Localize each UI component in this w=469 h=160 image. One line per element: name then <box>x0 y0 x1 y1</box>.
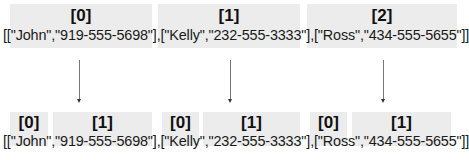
arrow-down-icon-2 <box>383 60 384 100</box>
outer-index-label-2: [2] <box>307 6 457 26</box>
inner-index-label-0-0: [0] <box>10 113 48 133</box>
arrow-down-icon-0 <box>79 60 80 100</box>
inner-index-label-2-0: [0] <box>310 113 347 133</box>
outer-index-label-0: [0] <box>10 6 152 26</box>
inner-index-label-2-1: [1] <box>352 113 451 133</box>
inner-index-label-1-1: [1] <box>203 113 300 133</box>
inner-index-label-1-0: [0] <box>162 113 199 133</box>
outer-index-label-1: [1] <box>158 6 300 26</box>
bottom-array-literal: [["John","919-555-5698"],["Kelly","232-5… <box>3 133 469 149</box>
arrow-down-icon-1 <box>230 60 231 100</box>
top-array-literal: [["John","919-555-5698"],["Kelly","232-5… <box>3 27 469 43</box>
inner-index-label-0-1: [1] <box>53 113 152 133</box>
